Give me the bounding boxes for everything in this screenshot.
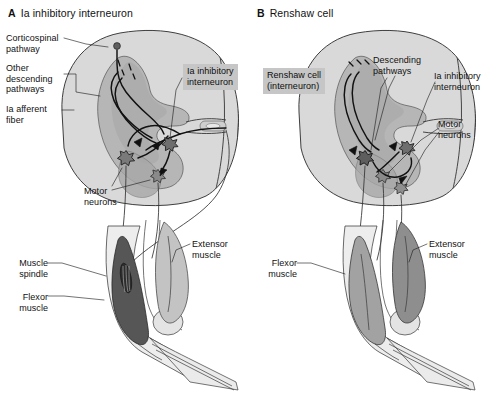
label-extensor-muscle: Extensor muscle: [192, 239, 228, 260]
label-renshaw-cell-highlight: Renshaw cell (interneuron): [263, 68, 325, 94]
panel-b-title: BRenshaw cell: [257, 7, 333, 19]
extensor-muscle-shape: [156, 222, 189, 323]
label-ia-inhibitory-interneuron-highlight: Ia inhibitory interneuron: [183, 64, 238, 90]
panel-b: BRenshaw cell Descending pathways Ia inh…: [249, 0, 498, 393]
label-corticospinal-pathway: Corticospinal pathway: [6, 33, 59, 54]
figure-root: AIa inhibitory interneuron Corticospinal…: [0, 0, 498, 393]
panel-b-letter: B: [257, 7, 265, 19]
label-extensor-muscle: Extensor muscle: [429, 239, 465, 260]
label-other-descending-pathways: Other descending pathways: [6, 63, 53, 95]
label-muscle-spindle: Muscle spindle: [0, 258, 48, 279]
panel-a-letter: A: [8, 7, 16, 19]
label-motor-neurons: Motor neurons: [84, 186, 117, 207]
corticospinal-terminal-bouton: [114, 43, 121, 50]
panel-a-illustration: [0, 0, 249, 393]
label-descending-pathways: Descending pathways: [373, 55, 421, 76]
panel-a: AIa inhibitory interneuron Corticospinal…: [0, 0, 249, 393]
label-flexor-muscle: Flexor muscle: [249, 258, 297, 279]
label-motor-neurons: Motor neurons: [438, 119, 471, 140]
label-flexor-muscle: Flexor muscle: [0, 292, 48, 313]
panel-a-title-text: Ia inhibitory interneuron: [21, 7, 133, 19]
label-ia-inhibitory-interneuron: Ia inhibitory interneuron: [434, 71, 481, 92]
extensor-muscle-shape: [393, 222, 426, 323]
label-ia-afferent-fiber: Ia afferent fiber: [6, 104, 47, 125]
panel-a-title: AIa inhibitory interneuron: [8, 7, 133, 19]
panel-b-title-text: Renshaw cell: [270, 7, 334, 19]
